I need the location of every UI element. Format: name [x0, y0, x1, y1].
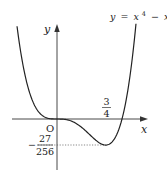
x-axis-arrow-icon	[140, 116, 148, 121]
function-curve	[17, 24, 136, 145]
y-axis-arrow-icon	[54, 24, 59, 32]
x-min-fraction-label: 3 4	[102, 96, 111, 119]
graph-figure: y x O y = x 4 − x 3 3 4 − 27 256	[0, 0, 167, 176]
x-axis-label: x	[141, 123, 148, 136]
y-axis-label: y	[43, 23, 51, 36]
svg-text:256: 256	[36, 146, 54, 157]
svg-text:3: 3	[103, 96, 109, 107]
equation-label: y = x 4 − x 3	[109, 7, 167, 22]
svg-text:4: 4	[103, 108, 109, 119]
svg-text:−: −	[28, 139, 36, 150]
svg-text:27: 27	[39, 133, 51, 144]
y-min-fraction-label: − 27 256	[28, 133, 54, 157]
